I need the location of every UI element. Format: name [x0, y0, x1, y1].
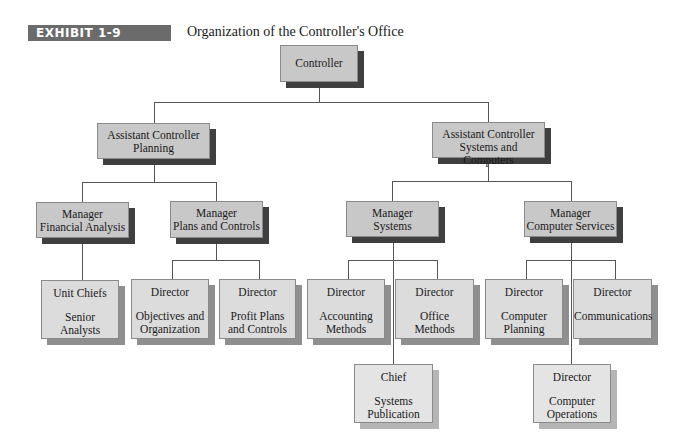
box-label: Manager — [525, 207, 616, 220]
box-label: Communications — [574, 310, 651, 323]
manager-financial-analysis-box: Manager Financial Analysis — [36, 202, 129, 238]
manager-systems-box: Manager Systems — [346, 201, 439, 237]
director-office-methods-box: Director Office Methods — [395, 279, 474, 339]
connector — [392, 181, 393, 201]
manager-plans-controls-box: Manager Plans and Controls — [170, 201, 263, 238]
box-title: Unit Chiefs — [42, 287, 118, 300]
connector — [216, 182, 217, 201]
director-objectives-box: Director Objectives and Organization — [131, 279, 209, 339]
connector — [571, 237, 572, 364]
connector — [526, 260, 527, 279]
box-label: Planning — [486, 323, 562, 336]
director-accounting-methods-box: Director Accounting Methods — [307, 279, 385, 339]
box-label: Manager — [347, 207, 438, 220]
box-label: Organization — [132, 323, 208, 336]
box-title: Director — [132, 286, 208, 299]
box-label: Office — [396, 310, 473, 323]
connector — [488, 102, 489, 122]
connector — [82, 182, 83, 202]
box-label: Senior — [42, 311, 118, 324]
box-title: Director — [220, 286, 295, 299]
director-computer-planning-box: Director Computer Planning — [485, 279, 563, 339]
controller-box: Controller — [280, 45, 358, 82]
box-label: Methods — [396, 323, 473, 336]
box-label: Methods — [308, 323, 384, 336]
box-label: Computer Services — [525, 220, 616, 233]
box-label: Operations — [534, 408, 610, 421]
box-label: Plans and Controls — [171, 220, 262, 233]
box-label: Controller — [281, 46, 357, 81]
connector — [526, 260, 616, 261]
unit-chiefs-box: Unit Chiefs Senior Analysts — [41, 280, 119, 339]
director-communications-box: Director Communications — [573, 279, 652, 339]
assistant-controller-planning-box: Assistant Controller Planning — [97, 123, 210, 159]
box-label: Assistant Controller — [433, 128, 544, 141]
box-label: Financial Analysis — [37, 221, 128, 234]
box-label: Computer — [534, 395, 610, 408]
box-title: Director — [574, 286, 651, 299]
connector — [348, 260, 349, 279]
director-profit-plans-box: Director Profit Plans and Controls — [219, 279, 296, 339]
connector — [154, 102, 155, 123]
box-label: Computer — [486, 310, 562, 323]
box-label: Planning — [98, 142, 209, 155]
connector — [172, 260, 173, 279]
manager-computer-services-box: Manager Computer Services — [524, 201, 617, 237]
connector — [172, 260, 260, 261]
box-label: Analysts — [42, 324, 118, 337]
box-label: Manager — [171, 207, 262, 220]
box-title: Director — [396, 286, 473, 299]
connector — [348, 260, 438, 261]
box-label: Systems — [355, 395, 432, 408]
box-label: Objectives and — [132, 310, 208, 323]
connector — [571, 181, 572, 201]
connector — [82, 182, 217, 183]
box-label: Manager — [37, 208, 128, 221]
box-label: Profit Plans — [220, 310, 295, 323]
exhibit-badge: EXHIBIT 1-9 — [28, 25, 171, 41]
connector — [615, 260, 616, 279]
box-label: Accounting — [308, 310, 384, 323]
diagram-title: Organization of the Controller's Office — [187, 23, 404, 41]
box-label: and Controls — [220, 323, 295, 336]
box-label: Systems — [347, 220, 438, 233]
connector — [393, 237, 394, 364]
connector — [154, 102, 489, 103]
assistant-controller-systems-box: Assistant Controller Systems and Compute… — [432, 122, 545, 158]
connector — [437, 260, 438, 279]
chief-systems-publication-box: Chief Systems Publication — [354, 364, 433, 423]
box-label: Assistant Controller — [98, 129, 209, 142]
director-computer-operations-box: Director Computer Operations — [533, 364, 611, 423]
box-label: Publication — [355, 408, 432, 421]
connector — [392, 181, 572, 182]
box-label: Systems and Computers — [433, 141, 544, 167]
connector — [82, 238, 83, 280]
box-title: Director — [308, 286, 384, 299]
box-title: Chief — [355, 371, 432, 384]
box-title: Director — [534, 371, 610, 384]
box-title: Director — [486, 286, 562, 299]
connector — [259, 260, 260, 279]
